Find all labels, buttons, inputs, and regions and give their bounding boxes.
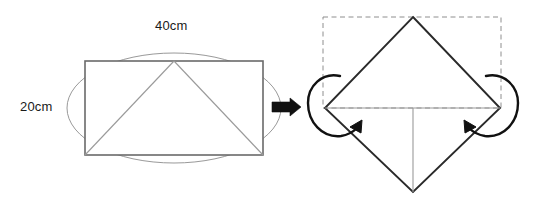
- rectangle-outline: [85, 61, 263, 155]
- right-arrow-icon: [272, 98, 301, 116]
- width-dimension-label: 40cm: [155, 18, 188, 33]
- process-arrow-group: [272, 98, 301, 116]
- left-figure-group: [67, 53, 281, 163]
- figure-root: 40cm 20cm: [0, 0, 540, 216]
- height-dimension-label: 20cm: [20, 99, 53, 114]
- right-figure-group: [308, 17, 518, 192]
- figure-canvas: [0, 0, 540, 216]
